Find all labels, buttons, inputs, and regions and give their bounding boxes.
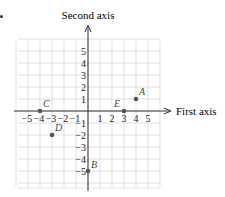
x-axis-label: First axis bbox=[176, 105, 217, 117]
point-label-a: A bbox=[138, 86, 146, 97]
x-tick-label: −5 bbox=[22, 113, 33, 124]
point-label-e: E bbox=[113, 98, 120, 109]
y-tick-label: −5 bbox=[75, 166, 86, 177]
point-label-b: B bbox=[91, 159, 97, 170]
point-b bbox=[86, 169, 91, 174]
y-tick-label: −4 bbox=[75, 154, 86, 165]
point-label-c: C bbox=[43, 98, 50, 109]
y-tick-label: −1 bbox=[75, 118, 86, 129]
y-tick-label: 4 bbox=[81, 58, 86, 69]
y-tick-label: 1 bbox=[81, 94, 86, 105]
y-tick-label: 2 bbox=[81, 82, 86, 93]
x-tick-label: 2 bbox=[110, 113, 115, 124]
y-tick-label: 3 bbox=[81, 70, 86, 81]
point-c bbox=[38, 109, 43, 114]
point-label-d: D bbox=[54, 122, 63, 133]
x-tick-label: −4 bbox=[34, 113, 45, 124]
x-tick-label: 3 bbox=[122, 113, 127, 124]
point-e bbox=[122, 109, 127, 114]
y-tick-label: −2 bbox=[75, 130, 86, 141]
x-tick-label: 5 bbox=[146, 113, 151, 124]
point-d bbox=[50, 133, 55, 138]
x-tick-label: 4 bbox=[134, 113, 139, 124]
y-tick-label: 5 bbox=[81, 46, 86, 57]
y-tick-label: −3 bbox=[75, 142, 86, 153]
coordinate-plane: −5−4−3−2−112345−5−4−3−2−112345 ABCDE Fir… bbox=[0, 0, 225, 197]
x-tick-label: 1 bbox=[98, 113, 103, 124]
y-axis-label: Second axis bbox=[62, 9, 115, 21]
point-a bbox=[134, 97, 139, 102]
